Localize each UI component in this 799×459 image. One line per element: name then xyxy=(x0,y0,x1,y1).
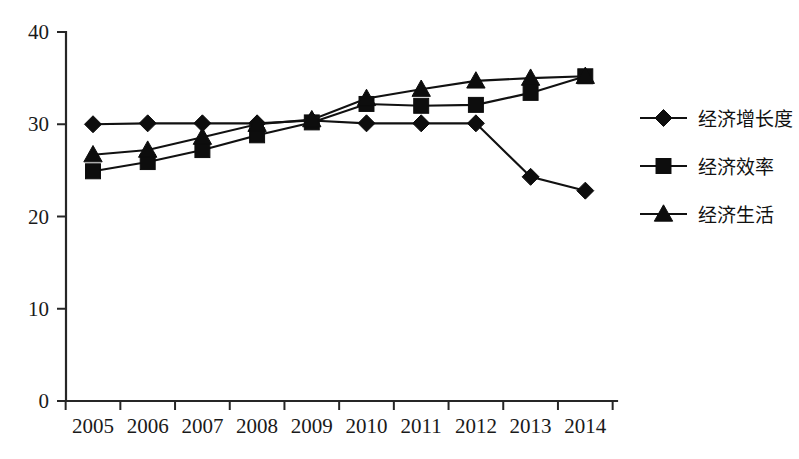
diamond-marker xyxy=(358,115,375,132)
chart-container: 010203040 200520062007200820092010201120… xyxy=(0,0,799,459)
y-axis-tick-label: 20 xyxy=(28,205,49,229)
square-marker xyxy=(414,98,429,113)
chart-series-group xyxy=(84,67,595,199)
y-axis-tick-label: 10 xyxy=(28,297,49,321)
line-chart: 010203040 200520062007200820092010201120… xyxy=(0,0,799,459)
y-axis-tick-label: 40 xyxy=(28,20,49,44)
x-axis-tick-label: 2013 xyxy=(510,414,552,438)
x-axis-tick-label: 2010 xyxy=(346,414,388,438)
square-marker xyxy=(468,97,483,112)
y-axis-tick-labels: 010203040 xyxy=(28,20,49,413)
x-axis-tick-label: 2005 xyxy=(72,414,114,438)
legend-label: 经济增长度 xyxy=(698,109,793,130)
x-axis-tick-label: 2006 xyxy=(127,414,169,438)
diamond-marker xyxy=(85,116,102,133)
x-axis-tick-label: 2009 xyxy=(291,414,333,438)
square-marker xyxy=(523,85,538,100)
chart-series xyxy=(85,112,594,199)
y-axis-tick-label: 0 xyxy=(39,389,50,413)
legend-item[interactable]: 经济增长度 xyxy=(640,109,793,130)
diamond-marker xyxy=(655,110,672,127)
chart-series xyxy=(84,67,595,162)
series-line xyxy=(93,121,585,191)
x-axis-tick-label: 2008 xyxy=(236,414,278,438)
x-axis-tick-label: 2011 xyxy=(401,414,442,438)
legend-item[interactable]: 经济效率 xyxy=(640,157,774,178)
legend-label: 经济效率 xyxy=(698,157,774,178)
series-line xyxy=(93,76,585,154)
chart-legend: 经济增长度经济效率经济生活 xyxy=(640,109,793,226)
legend-item[interactable]: 经济生活 xyxy=(640,205,774,226)
diamond-marker xyxy=(139,115,156,132)
x-axis-tick-label: 2012 xyxy=(455,414,497,438)
square-marker xyxy=(195,143,210,158)
square-marker xyxy=(656,159,671,174)
square-marker xyxy=(86,164,101,179)
diamond-marker xyxy=(413,115,430,132)
x-axis-tick-label: 2014 xyxy=(564,414,607,438)
legend-label: 经济生活 xyxy=(698,205,774,226)
x-axis-tick-label: 2007 xyxy=(181,414,223,438)
diamond-marker xyxy=(577,182,594,199)
y-axis-tick-label: 30 xyxy=(28,112,49,136)
x-axis-tick-labels: 2005200620072008200920102011201220132014 xyxy=(72,414,607,438)
